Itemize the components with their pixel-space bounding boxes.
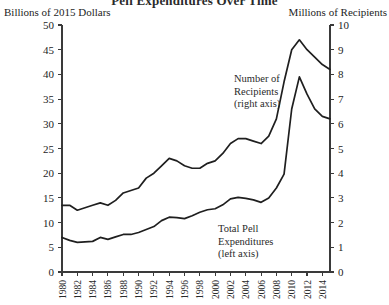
expenditures-annotation: Total PellExpenditures(left axis) <box>218 223 273 260</box>
right-axis-tick-label: 0 <box>338 266 344 278</box>
left-axis-tick-label: 30 <box>43 118 55 130</box>
x-axis: 1980198219841986198819901992199419961998… <box>58 272 331 299</box>
x-axis-tick-label: 1980 <box>58 280 68 299</box>
right-axis-tick-label: 7 <box>338 93 344 105</box>
left-axis-tick-label: 5 <box>49 241 55 253</box>
right-axis: 012345678910 <box>330 19 350 278</box>
chart-annotations: Number ofRecipients(right axis)Total Pel… <box>218 73 281 260</box>
series-lines <box>62 40 330 243</box>
right-axis-tick-label: 8 <box>338 68 344 80</box>
x-axis-tick-label: 1992 <box>149 280 159 299</box>
pell-expenditures-chart: Pell Expenditures Over Time Billions of … <box>0 0 389 305</box>
left-axis-tick-label: 0 <box>49 266 55 278</box>
right-axis-tick-label: 5 <box>338 143 344 155</box>
right-axis-tick-label: 6 <box>338 118 344 130</box>
x-axis-tick-label: 2012 <box>303 280 313 299</box>
right-axis-tick-label: 9 <box>338 44 344 56</box>
x-axis-tick-label: 1982 <box>73 280 83 299</box>
x-axis-tick-label: 2014 <box>318 280 328 299</box>
left-axis-tick-label: 35 <box>43 93 55 105</box>
x-axis-tick-label: 1984 <box>88 280 98 299</box>
recipients-annotation: Number ofRecipients(right axis) <box>234 73 281 110</box>
x-axis-tick-label: 1996 <box>180 280 190 299</box>
left-axis: 05101520253035404550 <box>43 19 62 278</box>
left-axis-tick-label: 40 <box>43 68 55 80</box>
right-axis-tick-label: 10 <box>338 19 350 31</box>
series-line-expenditures <box>62 77 330 242</box>
left-axis-tick-label: 45 <box>43 44 55 56</box>
x-axis-tick-label: 2000 <box>211 280 221 299</box>
right-axis-tick-label: 3 <box>338 192 344 204</box>
right-axis-tick-label: 1 <box>338 241 344 253</box>
x-axis-tick-label: 2010 <box>287 280 297 299</box>
right-axis-tick-label: 2 <box>338 217 344 229</box>
x-axis-tick-label: 1994 <box>165 280 175 299</box>
chart-plot-area: 05101520253035404550 012345678910 198019… <box>0 0 389 305</box>
x-axis-tick-label: 1998 <box>195 280 205 299</box>
right-axis-tick-label: 4 <box>338 167 344 179</box>
left-axis-tick-label: 20 <box>43 167 55 179</box>
x-axis-tick-label: 1988 <box>119 280 129 299</box>
left-axis-tick-label: 25 <box>43 143 55 155</box>
x-axis-tick-label: 1990 <box>134 280 144 299</box>
x-axis-tick-label: 2006 <box>257 280 267 299</box>
x-axis-tick-label: 1986 <box>103 280 113 299</box>
x-axis-tick-label: 2002 <box>226 280 236 299</box>
x-axis-tick-label: 2008 <box>272 280 282 299</box>
left-axis-tick-label: 15 <box>43 192 55 204</box>
left-axis-tick-label: 50 <box>43 19 55 31</box>
x-axis-tick-label: 2004 <box>241 280 251 299</box>
left-axis-tick-label: 10 <box>43 217 55 229</box>
